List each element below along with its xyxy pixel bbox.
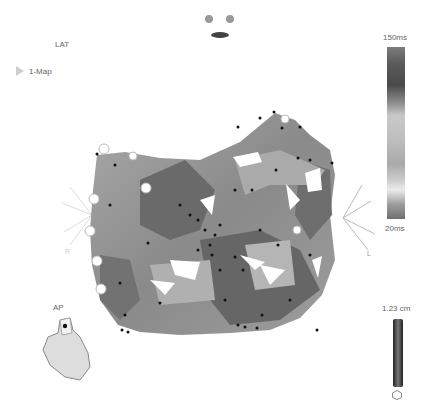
heart-orientation-icon[interactable] (40, 315, 92, 385)
hexagon-icon[interactable] (392, 390, 402, 400)
right-axis-label: L (367, 250, 371, 257)
scale-label: 1.23 cm (382, 304, 410, 313)
scale-bar[interactable] (393, 319, 403, 387)
svg-text:R: R (65, 248, 70, 255)
left-axis-indicator-icon (62, 187, 92, 245)
right-axis-indicator-icon (343, 185, 375, 250)
view-orientation-label: AP (53, 303, 64, 312)
